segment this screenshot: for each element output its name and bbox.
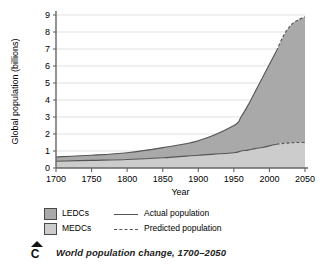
caption-marker-letter: C (27, 247, 43, 262)
legend-label-medcs: MEDCs (62, 224, 114, 233)
legend-row-ledcs: LEDCs Actual population (44, 206, 294, 221)
y-tick-label-0: 0 (45, 163, 50, 173)
caption-text: World population change, 1700–2050 (56, 247, 226, 258)
x-axis-title: Year (171, 187, 189, 197)
y-tick-label-2: 2 (45, 129, 50, 139)
x-tick-label-1750: 1750 (82, 174, 102, 184)
figure-container: 0123456789170017501800185019001950200020… (0, 0, 323, 265)
figure-caption: C World population change, 1700–2050 (27, 241, 226, 263)
legend-label-predicted: Predicted population (144, 224, 222, 233)
y-tick-label-4: 4 (45, 95, 50, 105)
y-tick-label-1: 1 (45, 146, 50, 156)
chart-legend: LEDCs Actual population MEDCs Predicted … (44, 206, 294, 236)
x-tick-label-2050: 2050 (295, 174, 315, 184)
y-tick-label-8: 8 (45, 27, 50, 37)
y-tick-label-6: 6 (45, 61, 50, 71)
y-axis-title: Global population (billions) (10, 38, 20, 144)
x-tick-label-1700: 1700 (46, 174, 66, 184)
x-tick-label-1800: 1800 (117, 174, 137, 184)
medcs-swatch-icon (44, 223, 57, 235)
predicted-line-icon (114, 224, 138, 234)
y-tick-label-5: 5 (45, 78, 50, 88)
legend-row-medcs: MEDCs Predicted population (44, 221, 294, 236)
y-tick-label-9: 9 (45, 10, 50, 20)
y-tick-label-7: 7 (45, 44, 50, 54)
x-tick-label-2000: 2000 (259, 174, 279, 184)
legend-label-actual: Actual population (144, 209, 209, 218)
legend-label-ledcs: LEDCs (62, 209, 114, 218)
y-tick-label-3: 3 (45, 112, 50, 122)
x-tick-label-1850: 1850 (153, 174, 173, 184)
x-tick-label-1950: 1950 (224, 174, 244, 184)
caption-marker: C (27, 241, 47, 263)
ledcs-swatch-icon (44, 208, 57, 220)
x-tick-label-1900: 1900 (188, 174, 208, 184)
actual-line-icon (114, 209, 138, 219)
